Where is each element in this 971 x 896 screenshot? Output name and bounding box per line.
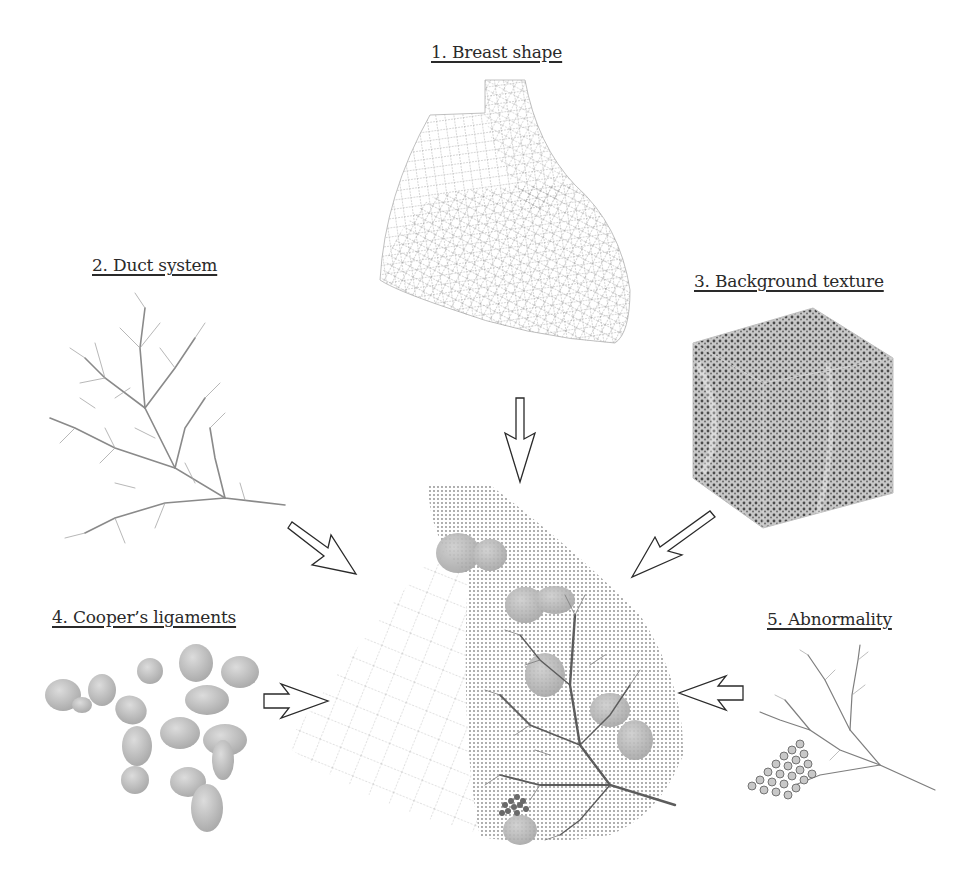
label-background-texture: 3. Background texture — [694, 271, 884, 291]
label-duct-system: 2. Duct system — [92, 255, 217, 275]
abnormality-structure — [740, 640, 940, 820]
label-breast-shape: 1. Breast shape — [431, 42, 562, 62]
arrow-down-from-breast-shape — [500, 395, 540, 487]
coopers-ligaments-blobs — [40, 640, 265, 840]
duct-system-tree — [45, 288, 290, 553]
breast-shape-mesh — [375, 75, 640, 350]
arrow-from-abnormality — [676, 672, 746, 714]
arrow-from-background-texture — [628, 505, 718, 581]
arrow-from-duct-system — [284, 518, 360, 578]
background-texture-cube — [688, 303, 898, 533]
label-abnormality: 5. Abnormality — [767, 609, 892, 629]
arrow-from-coopers-ligaments — [261, 680, 331, 722]
label-coopers-ligaments: 4. Cooper’s ligaments — [52, 607, 236, 627]
